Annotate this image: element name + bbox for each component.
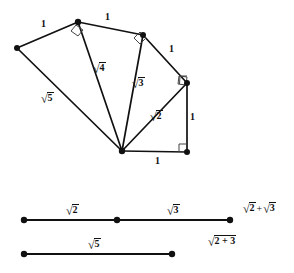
label-unit-upper-right: 1 bbox=[169, 44, 174, 54]
spiral-vertex-dots bbox=[14, 19, 190, 155]
label-sqrt5: √5 bbox=[41, 93, 54, 105]
edge-unit-top-left bbox=[17, 22, 78, 48]
radicand: 3 bbox=[138, 77, 145, 88]
radicand: 2 bbox=[72, 204, 79, 215]
segment-bottom-left-endpoint-dot bbox=[21, 251, 27, 257]
radical-sqrt-of-sum: √2 + 3 bbox=[208, 236, 236, 248]
label-segment-sqrt3: √3 bbox=[167, 205, 180, 217]
edge-sqrt5 bbox=[17, 48, 122, 151]
label-sqrt3: √3 bbox=[132, 78, 145, 90]
vertex-right-dot bbox=[184, 80, 190, 86]
segment-top-middle-endpoint-dot bbox=[114, 217, 120, 223]
label-segment-sqrt-of-sum: √2 + 3 bbox=[208, 236, 236, 248]
radicand: 2 + 3 bbox=[214, 235, 237, 246]
vertex-upper-right-dot bbox=[140, 32, 146, 38]
radicand: 2 bbox=[249, 202, 256, 213]
radical-sqrt5: √5 bbox=[41, 93, 54, 105]
edge-unit-top-right bbox=[78, 22, 143, 35]
radicand: 5 bbox=[94, 238, 101, 249]
radical-sqrt3: √3 bbox=[167, 205, 180, 217]
label-unit-top-left: 1 bbox=[41, 19, 46, 29]
spiral-edges bbox=[17, 22, 187, 152]
label-sqrt2: √2 bbox=[150, 111, 163, 123]
vertex-left-dot bbox=[14, 45, 20, 51]
label-unit-right: 1 bbox=[190, 112, 195, 122]
plus-operator: + bbox=[256, 203, 264, 214]
label-segment-sqrt2: √2 bbox=[66, 205, 79, 217]
radical-sqrt2-term: √2 bbox=[243, 203, 256, 215]
edge-sqrt4 bbox=[78, 22, 122, 151]
radical-sqrt5: √5 bbox=[88, 239, 101, 251]
radicand: 2 bbox=[156, 110, 163, 121]
radical-sqrt3: √3 bbox=[132, 78, 145, 90]
vertex-bottom-right-dot bbox=[184, 149, 190, 155]
comparison-segments bbox=[21, 217, 233, 257]
radical-sqrt4: √4 bbox=[93, 63, 106, 75]
label-sqrt4: √4 bbox=[93, 63, 106, 75]
edge-sqrt3 bbox=[122, 35, 143, 151]
vertex-apex-dot bbox=[75, 19, 81, 25]
label-segment-sqrt5: √5 bbox=[88, 239, 101, 251]
edge-unit-bottom bbox=[122, 151, 187, 152]
spiral-of-theodorus-figure bbox=[0, 0, 294, 273]
label-unit-top-right: 1 bbox=[105, 12, 110, 22]
segment-bottom-right-endpoint-dot bbox=[169, 251, 175, 257]
segment-top-left-endpoint-dot bbox=[21, 217, 27, 223]
radicand: 3 bbox=[269, 202, 276, 213]
radicand: 3 bbox=[173, 204, 180, 215]
label-unit-bottom: 1 bbox=[155, 156, 160, 166]
radical-sqrt2: √2 bbox=[150, 111, 163, 123]
radical-sqrt2: √2 bbox=[66, 205, 79, 217]
label-segment-sum: √2+√3 bbox=[243, 203, 276, 215]
radical-sqrt3-term: √3 bbox=[263, 203, 276, 215]
segment-top-right-endpoint-dot bbox=[227, 217, 233, 223]
vertex-origin-dot bbox=[119, 148, 125, 154]
radicand: 5 bbox=[47, 92, 54, 103]
radicand: 4 bbox=[99, 62, 106, 73]
